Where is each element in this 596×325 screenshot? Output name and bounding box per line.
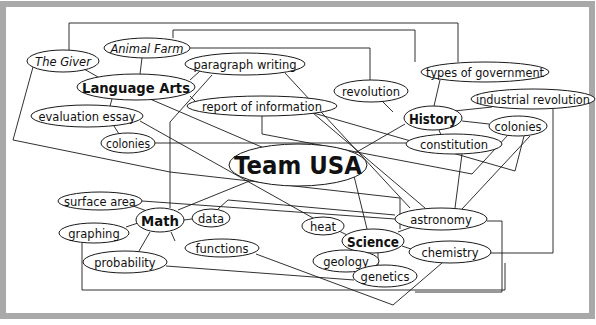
node-label: Science xyxy=(347,234,399,250)
node-label: astronomy xyxy=(410,213,472,227)
node-functions: functions xyxy=(185,239,259,257)
node-label: revolution xyxy=(342,85,400,99)
node-label: Team USA xyxy=(234,152,362,180)
node-constitution: constitution xyxy=(406,134,502,154)
node-label: chemistry xyxy=(421,246,478,260)
node-label: colonies xyxy=(106,137,150,151)
node-label: constitution xyxy=(420,138,488,152)
node-heat: heat xyxy=(302,217,344,235)
node-the-giver: The Giver xyxy=(27,50,99,72)
node-genetics: genetics xyxy=(353,265,417,287)
node-surface-area: surface area xyxy=(58,192,142,210)
node-science: Science xyxy=(342,229,404,253)
node-label: Language Arts xyxy=(82,80,190,96)
node-label: probability xyxy=(94,256,156,270)
node-label: History xyxy=(409,111,457,127)
node-label: industrial revolution xyxy=(476,93,590,107)
node-chemistry: chemistry xyxy=(409,241,491,263)
node-paragraph-writing: paragraph writing xyxy=(185,53,305,75)
node-language-arts: Language Arts xyxy=(77,74,195,100)
node-colonies-right: colonies xyxy=(489,116,547,136)
node-types-of-government: types of government xyxy=(421,62,549,82)
node-label: Math xyxy=(141,213,179,229)
node-report-of-information: report of information xyxy=(187,96,337,116)
node-label: report of information xyxy=(202,100,322,114)
node-probability: probability xyxy=(83,251,167,273)
node-astronomy: astronomy xyxy=(395,208,487,230)
node-label: types of government xyxy=(426,66,544,80)
concept-map: Team USALanguage ArtsHistoryMathScienceT… xyxy=(0,0,596,325)
node-label: genetics xyxy=(361,270,410,284)
node-label: colonies xyxy=(494,120,541,134)
node-label: heat xyxy=(310,220,336,234)
node-label: graphing xyxy=(68,227,119,241)
node-label: surface area xyxy=(64,195,136,209)
node-evaluation-essay: evaluation essay xyxy=(31,105,143,127)
node-industrial-revolution: industrial revolution xyxy=(471,89,595,109)
node-label: evaluation essay xyxy=(38,110,135,124)
node-graphing: graphing xyxy=(59,223,129,243)
node-math: Math xyxy=(136,208,184,232)
node-label: The Giver xyxy=(35,55,92,69)
node-label: Animal Farm xyxy=(109,42,183,56)
node-animal-farm: Animal Farm xyxy=(104,38,190,58)
node-label: geology xyxy=(323,255,369,269)
node-team-usa: Team USA xyxy=(229,144,367,186)
node-data: data xyxy=(192,209,230,227)
node-label: paragraph writing xyxy=(193,58,296,72)
node-colonies-left: colonies xyxy=(101,133,155,153)
node-revolution: revolution xyxy=(334,80,408,102)
node-label: functions xyxy=(196,242,249,256)
node-history: History xyxy=(404,106,462,130)
node-label: data xyxy=(198,212,224,226)
